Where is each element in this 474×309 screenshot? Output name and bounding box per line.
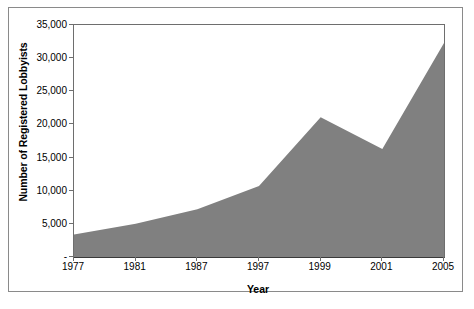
area-series-svg [74,25,444,257]
area-series-polygon [74,43,444,257]
x-tick-mark [135,257,136,261]
y-tick-label: - [7,251,67,262]
x-tick-mark [258,257,259,261]
plot-area [73,24,445,258]
x-tick-label: 2005 [413,261,473,272]
x-tick-mark [196,257,197,261]
x-tick-mark [73,257,74,261]
x-axis-title: Year [73,283,443,295]
x-tick-label: 1981 [105,261,165,272]
y-tick-mark [69,223,73,224]
x-tick-label: 1999 [290,261,350,272]
y-tick-label: 15,000 [7,151,67,162]
y-tick-label: 25,000 [7,85,67,96]
chart-figure: Number of Registered Lobbyists -5,00010,… [0,0,474,309]
y-tick-label: 35,000 [7,19,67,30]
y-tick-label: 30,000 [7,52,67,63]
y-tick-mark [69,190,73,191]
y-tick-mark [69,57,73,58]
y-tick-label: 20,000 [7,118,67,129]
y-tick-mark [69,24,73,25]
x-tick-label: 1977 [43,261,103,272]
x-tick-mark [320,257,321,261]
y-tick-mark [69,157,73,158]
y-tick-label: 5,000 [7,217,67,228]
x-tick-mark [381,257,382,261]
x-tick-label: 2001 [351,261,411,272]
y-tick-mark [69,123,73,124]
y-tick-label: 10,000 [7,184,67,195]
x-tick-label: 1997 [228,261,288,272]
y-tick-mark [69,90,73,91]
x-tick-mark [443,257,444,261]
x-tick-label: 1987 [166,261,226,272]
